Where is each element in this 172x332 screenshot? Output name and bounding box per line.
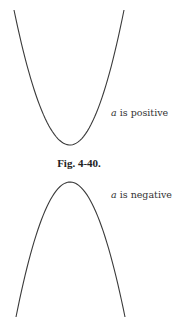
upward-parabola [14, 10, 124, 145]
positive-label-text: is positive [117, 107, 169, 118]
negative-label-text: is negative [117, 189, 172, 200]
figure-caption: Fig. 4-40. [0, 157, 158, 169]
negative-label: a is negative [111, 189, 172, 200]
downward-parabola [16, 182, 125, 317]
positive-label: a is positive [111, 107, 168, 118]
